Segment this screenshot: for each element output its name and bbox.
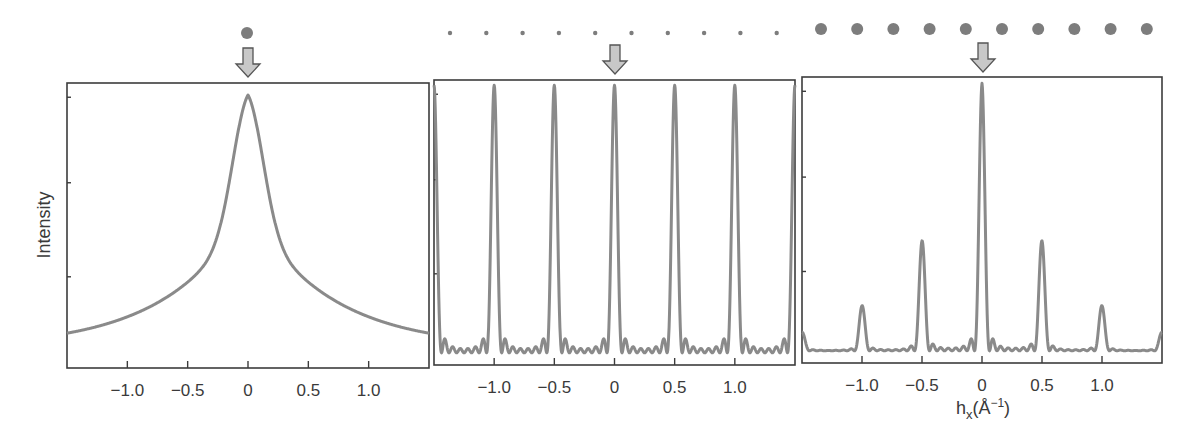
x-tick-label: 0.5: [297, 381, 321, 400]
x-tick-label: 1.0: [1090, 376, 1114, 395]
x-label-close: ): [1004, 398, 1010, 418]
intensity-curve: [802, 83, 1162, 351]
x-label-unit: (Å: [972, 398, 990, 418]
panel-single-atom: −1.0−0.500.51.0: [67, 27, 429, 400]
lattice-dot-icon: [484, 31, 488, 35]
diffraction-figure: Intensity −1.0−0.500.51.0 −1.0−0.500.51.…: [0, 0, 1197, 447]
atom-dot-icon: [1141, 23, 1153, 35]
x-tick-label: 0: [610, 378, 619, 397]
atom-dot-icon: [1105, 23, 1117, 35]
x-tick-label: −1.0: [477, 378, 511, 397]
atom-dot-icon: [887, 23, 899, 35]
x-tick-label: −1.0: [111, 381, 145, 400]
atom-dot-icon: [1068, 23, 1080, 35]
lattice-dot-icon: [557, 31, 561, 35]
x-tick-label: 1.0: [357, 381, 381, 400]
plot-frame: [67, 83, 429, 368]
atom-dot-icon: [815, 23, 827, 35]
x-axis-label: hx(Å−1): [956, 396, 1010, 422]
atom-dot-icon: [960, 23, 972, 35]
x-tick-label: 1.0: [723, 378, 747, 397]
x-tick-label: −0.5: [538, 378, 572, 397]
panel-crystal: −1.0−0.500.51.0: [802, 23, 1162, 395]
atom-dot-icon: [241, 27, 253, 39]
lattice-dot-icon: [520, 31, 524, 35]
down-arrow-icon: [236, 48, 260, 77]
panel-lattice: −1.0−0.500.51.0: [434, 31, 795, 397]
atom-dot-icon: [924, 23, 936, 35]
down-arrow-icon: [971, 43, 995, 72]
x-tick-label: 0.5: [663, 378, 687, 397]
intensity-curve: [434, 85, 795, 353]
lattice-dot-icon: [775, 31, 779, 35]
x-ticks: −1.0−0.500.51.0: [111, 361, 381, 400]
lattice-dot-icon: [666, 31, 670, 35]
lattice-dot-icon: [629, 31, 633, 35]
x-tick-label: 0.5: [1030, 376, 1054, 395]
atom-dot-icon: [1032, 23, 1044, 35]
intensity-curve: [67, 95, 429, 333]
lattice-dot-icon: [702, 31, 706, 35]
x-tick-label: 0: [977, 376, 986, 395]
x-ticks: −1.0−0.500.51.0: [477, 358, 746, 397]
x-tick-label: −0.5: [905, 376, 939, 395]
lattice-dots: [448, 31, 779, 35]
x-tick-label: −1.0: [845, 376, 879, 395]
x-tick-label: 0: [243, 381, 252, 400]
lattice-dot-icon: [738, 31, 742, 35]
lattice-dot-icon: [448, 31, 452, 35]
x-tick-label: −0.5: [171, 381, 205, 400]
y-axis-label: Intensity: [34, 191, 54, 258]
crystal-dots: [815, 23, 1153, 35]
atom-dot-icon: [996, 23, 1008, 35]
x-ticks: −1.0−0.500.51.0: [845, 356, 1114, 395]
atom-dot-icon: [851, 23, 863, 35]
x-label-main: h: [956, 398, 966, 418]
down-arrow-icon: [603, 45, 627, 74]
x-label-superscript: −1: [990, 396, 1004, 410]
lattice-dot-icon: [593, 31, 597, 35]
